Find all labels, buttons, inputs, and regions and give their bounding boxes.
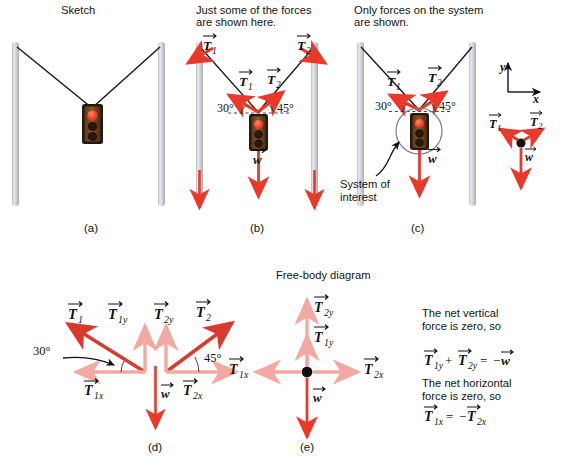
svg-text:+: + bbox=[445, 353, 452, 368]
header-panel-c-line2: are shown. bbox=[354, 16, 409, 28]
svg-text:w: w bbox=[525, 150, 534, 164]
angle-label-30-c: 30° bbox=[375, 99, 392, 113]
svg-text:1: 1 bbox=[78, 314, 83, 325]
header-sketch: Sketch bbox=[61, 4, 95, 16]
equation-vertical: T 1y + T 2y = − w bbox=[424, 349, 513, 371]
label-T1y-d: T 1y bbox=[108, 302, 128, 326]
svg-text:T: T bbox=[183, 383, 193, 398]
angle-label-45-d: 45° bbox=[204, 351, 222, 365]
mini-vector-T1 bbox=[500, 129, 518, 140]
angle-pointer-30-d bbox=[63, 357, 114, 365]
svg-text:T: T bbox=[424, 409, 434, 424]
mini-vector-triad bbox=[500, 129, 543, 188]
label-T1-b: T 1 bbox=[239, 70, 253, 92]
svg-text:2: 2 bbox=[306, 46, 311, 56]
label-T1-d: T 1 bbox=[68, 302, 83, 326]
header-panel-c-line1: Only forces on the system bbox=[354, 4, 483, 16]
svg-text:2x: 2x bbox=[374, 369, 384, 380]
label-w-e: w bbox=[313, 387, 325, 405]
note-vertical-line1: The net vertical bbox=[422, 307, 498, 320]
label-w-d: w bbox=[161, 383, 173, 401]
svg-text:2y: 2y bbox=[164, 314, 174, 325]
panel-label-a: (a) bbox=[84, 222, 98, 234]
pole-right-a bbox=[158, 42, 165, 206]
cable-right-a bbox=[92, 47, 160, 108]
svg-text:w: w bbox=[313, 390, 322, 405]
panel-label-d: (d) bbox=[148, 441, 162, 453]
svg-text:T: T bbox=[68, 306, 78, 322]
svg-text:T: T bbox=[239, 74, 248, 89]
svg-text:2: 2 bbox=[538, 121, 543, 131]
svg-text:2y: 2y bbox=[468, 360, 478, 371]
svg-text:−: − bbox=[493, 353, 500, 368]
label-T2y-d: T 2y bbox=[154, 302, 174, 326]
svg-text:T: T bbox=[314, 330, 324, 345]
pole-right-c bbox=[469, 42, 476, 206]
label-T2x-d: T 2x bbox=[183, 379, 203, 402]
svg-text:1x: 1x bbox=[94, 390, 104, 401]
label-T2-b: T 2 bbox=[267, 68, 281, 90]
svg-text:1: 1 bbox=[497, 123, 501, 133]
vector-T2-d bbox=[166, 323, 232, 372]
point-mass-e bbox=[302, 367, 313, 378]
label-T1y-e: T 1y bbox=[314, 325, 334, 349]
svg-text:T: T bbox=[108, 306, 118, 322]
svg-text:1: 1 bbox=[212, 46, 217, 56]
label-w-b: w bbox=[253, 148, 265, 167]
panel-d bbox=[63, 323, 236, 428]
svg-text:2: 2 bbox=[437, 78, 442, 88]
coordinate-axes bbox=[508, 63, 540, 92]
axis-label-x: x bbox=[532, 92, 539, 106]
header-panel-b-line1: Just some of the forces bbox=[196, 4, 312, 16]
svg-text:w: w bbox=[253, 152, 262, 167]
panel-label-c: (c) bbox=[411, 222, 424, 234]
svg-text:2y: 2y bbox=[324, 307, 334, 318]
system-pointer-arrow bbox=[376, 142, 399, 176]
label-mini-w: w bbox=[525, 147, 536, 164]
angle-arc-right-b bbox=[269, 105, 274, 113]
note-horizontal-line2: force is zero, so bbox=[422, 390, 501, 403]
label-T2-c: T 2 bbox=[428, 66, 442, 88]
svg-text:T: T bbox=[364, 362, 374, 377]
vector-T1-d bbox=[68, 324, 145, 372]
svg-text:w: w bbox=[501, 353, 511, 368]
panel-a bbox=[12, 42, 165, 206]
label-T2y-e: T 2y bbox=[314, 295, 334, 319]
svg-text:1y: 1y bbox=[434, 360, 444, 371]
angle-arc-right-c bbox=[431, 104, 436, 112]
svg-text:1: 1 bbox=[248, 82, 253, 92]
svg-text:1y: 1y bbox=[324, 337, 334, 348]
svg-text:T: T bbox=[297, 38, 306, 53]
svg-text:2x: 2x bbox=[477, 416, 487, 427]
svg-text:T: T bbox=[196, 304, 206, 320]
label-mini-T2: T 2 bbox=[530, 111, 543, 131]
svg-text:w: w bbox=[428, 151, 437, 166]
panel-b bbox=[188, 42, 325, 208]
figure-root: T 1 T 2 T 1 T 2 w bbox=[0, 0, 573, 458]
label-T1-pole-b: T 1 bbox=[203, 34, 217, 56]
label-T2-pole-b: T 2 bbox=[297, 34, 311, 56]
cable-left-a bbox=[17, 47, 92, 108]
svg-text:T: T bbox=[387, 74, 396, 89]
svg-text:2x: 2x bbox=[193, 390, 203, 401]
svg-text:T: T bbox=[267, 72, 276, 87]
label-w-c: w bbox=[428, 147, 440, 166]
svg-text:2: 2 bbox=[276, 80, 281, 90]
svg-text:T: T bbox=[424, 353, 434, 368]
traffic-light-c bbox=[410, 113, 429, 150]
label-T1x-d: T 1x bbox=[84, 379, 104, 402]
angle-arc-d-right bbox=[195, 357, 199, 372]
system-of-interest-line1: System of bbox=[340, 178, 390, 191]
traffic-light-a bbox=[82, 104, 103, 144]
label-T2-d: T 2 bbox=[196, 300, 211, 324]
angle-label-30-b: 30° bbox=[217, 101, 234, 115]
label-mini-T1: T 1 bbox=[489, 113, 501, 133]
svg-text:T: T bbox=[458, 353, 468, 368]
svg-text:T: T bbox=[84, 383, 94, 398]
vector-T1-c bbox=[390, 95, 419, 110]
svg-text:1y: 1y bbox=[118, 314, 128, 325]
equation-horizontal: T 1x = − T 2x bbox=[424, 405, 487, 427]
header-panel-b-line2: are shown here. bbox=[196, 16, 276, 28]
label-T1-c: T 1 bbox=[387, 70, 401, 92]
svg-text:−: − bbox=[459, 409, 466, 424]
